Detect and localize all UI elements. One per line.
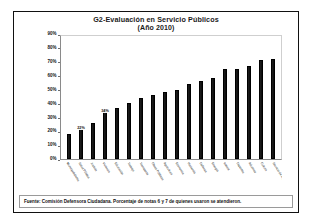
bar[interactable] bbox=[151, 95, 155, 159]
bar[interactable] bbox=[235, 69, 239, 159]
bar-slot bbox=[195, 36, 207, 159]
x-axis-tick-label: Defensa bbox=[199, 162, 208, 173]
screenshot-page: G2-Evaluación en Servicio Públicos (Año … bbox=[0, 0, 312, 223]
bar-value-label: 22% bbox=[77, 126, 85, 130]
x-axis-tick-label: Aduanas bbox=[247, 162, 256, 174]
bar-series: 22%34% bbox=[61, 36, 281, 159]
x-axis-tick-label: Interior bbox=[223, 162, 231, 172]
bar-slot bbox=[63, 36, 75, 159]
y-axis: 90%80%70%60%50%40%30%20%10%0% bbox=[14, 35, 60, 160]
bar[interactable] bbox=[247, 66, 251, 159]
bar[interactable] bbox=[271, 59, 275, 159]
bar-slot bbox=[135, 36, 147, 159]
bar[interactable] bbox=[175, 90, 179, 159]
bar-slot bbox=[87, 36, 99, 159]
bar[interactable] bbox=[187, 84, 191, 159]
bar-slot bbox=[171, 36, 183, 159]
bar-slot bbox=[147, 36, 159, 159]
bar-slot bbox=[207, 36, 219, 159]
x-axis-tick-label: Justicia bbox=[90, 162, 98, 172]
bar-slot bbox=[255, 36, 267, 159]
bar[interactable] bbox=[139, 98, 143, 159]
bar-slot bbox=[267, 36, 279, 159]
x-axis-tick-label: Energía bbox=[211, 162, 219, 173]
bar-slot bbox=[231, 36, 243, 159]
bar-slot: 22% bbox=[75, 36, 87, 159]
bar[interactable] bbox=[67, 134, 71, 159]
chart-title: G2-Evaluación en Servicio Públicos (Año … bbox=[14, 16, 298, 33]
bar[interactable] bbox=[163, 92, 167, 159]
source-note-text: Fuente: Comisión Defensora Ciudadana. Po… bbox=[24, 199, 241, 204]
bar[interactable] bbox=[115, 108, 119, 159]
plot-area: 22%34% bbox=[60, 35, 282, 160]
source-note: Fuente: Comisión Defensora Ciudadana. Po… bbox=[19, 195, 293, 208]
chart-title-line-2: (Año 2010) bbox=[14, 24, 298, 32]
bar-slot bbox=[111, 36, 123, 159]
bar[interactable] bbox=[223, 69, 227, 159]
bar[interactable] bbox=[259, 60, 263, 159]
bar[interactable] bbox=[127, 103, 131, 159]
bar[interactable] bbox=[91, 123, 95, 159]
bar-slot: 34% bbox=[99, 36, 111, 159]
bar[interactable] bbox=[199, 81, 203, 159]
bar-slot bbox=[123, 36, 135, 159]
x-axis-tick-label: Servicio de Impuestos Internos bbox=[271, 162, 282, 199]
bar[interactable] bbox=[103, 112, 107, 159]
bar-slot bbox=[219, 36, 231, 159]
bar[interactable] bbox=[79, 128, 83, 159]
bar-slot bbox=[159, 36, 171, 159]
bar[interactable] bbox=[211, 78, 215, 159]
bar-slot bbox=[183, 36, 195, 159]
chart-figure-frame: G2-Evaluación en Servicio Públicos (Año … bbox=[13, 11, 299, 213]
x-axis-tick-label: Vivienda bbox=[102, 162, 111, 173]
x-axis-tick-label: Trabajo bbox=[126, 162, 134, 172]
bar-value-label: 34% bbox=[101, 110, 109, 114]
bar-slot bbox=[243, 36, 255, 159]
chart-title-line-1: G2-Evaluación en Servicio Públicos bbox=[14, 16, 298, 24]
x-axis-tick-label: Cultura bbox=[259, 162, 267, 172]
